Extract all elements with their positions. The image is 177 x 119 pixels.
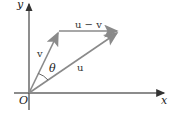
x-axis-label: x: [161, 94, 168, 107]
angle-theta-label: θ: [49, 62, 56, 75]
vector-u-label: u: [77, 62, 84, 73]
vector-u-minus-v-label: u − v: [75, 19, 102, 30]
vector-diagram: y x O v u u − v θ: [0, 0, 177, 119]
origin-label: O: [19, 94, 28, 107]
y-axis-label: y: [16, 0, 24, 11]
angle-arc: [39, 74, 49, 81]
vector-u: [29, 33, 117, 93]
vector-v-label: v: [36, 48, 43, 59]
